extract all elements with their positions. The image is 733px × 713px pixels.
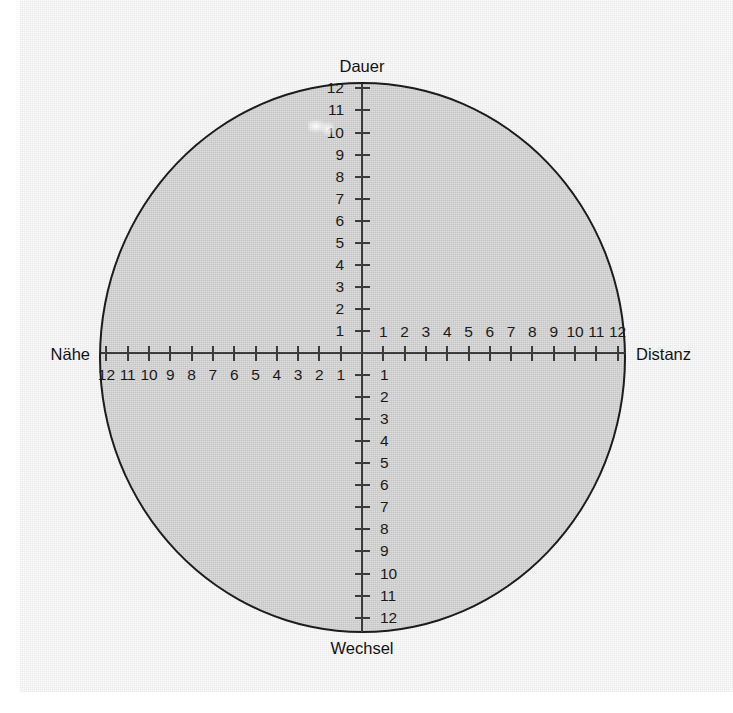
tick-mark — [212, 346, 214, 361]
tick-label-naehe: 3 — [294, 367, 303, 383]
scanned-page: 1234567891011121234567891011121234567891… — [0, 0, 733, 713]
tick-mark — [355, 462, 370, 464]
tick-label-naehe: 12 — [98, 367, 115, 383]
tick-mark — [355, 176, 370, 178]
horizontal-axis — [101, 352, 625, 354]
tick-label-distanz: 11 — [588, 324, 604, 340]
tick-label-dauer: 7 — [335, 191, 344, 207]
tick-mark — [169, 346, 171, 361]
tick-mark — [355, 396, 370, 398]
tick-label-naehe: 5 — [251, 367, 260, 383]
tick-mark — [127, 346, 129, 361]
tick-label-dauer: 12 — [327, 81, 344, 97]
tick-label-dauer: 9 — [335, 147, 344, 163]
tick-label-dauer: 11 — [328, 103, 344, 119]
tick-label-dauer: 5 — [335, 235, 344, 251]
tick-mark — [425, 346, 427, 361]
tick-label-wechsel: 2 — [380, 389, 389, 405]
tick-mark — [574, 346, 576, 361]
tick-label-wechsel: 6 — [380, 478, 389, 494]
tick-mark — [297, 346, 299, 361]
tick-label-naehe: 7 — [209, 367, 218, 383]
tick-label-distanz: 5 — [464, 324, 473, 340]
tick-mark — [446, 346, 448, 361]
tick-label-distanz: 6 — [485, 324, 494, 340]
tick-mark — [355, 286, 370, 288]
tick-label-distanz: 10 — [566, 324, 583, 340]
tick-mark — [318, 346, 320, 361]
tick-label-distanz: 4 — [443, 324, 452, 340]
tick-label-wechsel: 8 — [380, 522, 389, 538]
tick-mark — [355, 308, 370, 310]
tick-mark — [531, 346, 533, 361]
tick-mark — [355, 573, 370, 575]
tick-label-wechsel: 7 — [380, 500, 389, 516]
tick-mark — [617, 346, 619, 361]
pole-label-top: Dauer — [340, 58, 385, 75]
tick-mark — [355, 220, 370, 222]
tick-label-naehe: 9 — [166, 367, 175, 383]
tick-mark — [255, 346, 257, 361]
tick-label-wechsel: 9 — [380, 544, 389, 560]
tick-mark — [355, 528, 370, 530]
tick-label-distanz: 2 — [400, 324, 409, 340]
pole-label-right: Distanz — [636, 346, 691, 363]
tick-mark — [355, 595, 370, 597]
tick-mark — [468, 346, 470, 361]
tick-label-distanz: 1 — [379, 324, 388, 340]
tick-label-naehe: 10 — [140, 367, 157, 383]
tick-mark — [355, 418, 370, 420]
pole-label-bottom: Wechsel — [331, 640, 394, 657]
tick-mark — [510, 346, 512, 361]
tick-label-dauer: 8 — [335, 169, 344, 185]
tick-label-wechsel: 1 — [380, 367, 389, 383]
tick-label-distanz: 9 — [549, 324, 558, 340]
tick-label-naehe: 8 — [187, 367, 196, 383]
tick-mark — [355, 264, 370, 266]
tick-mark — [355, 242, 370, 244]
tick-mark — [355, 132, 370, 134]
tick-label-dauer: 10 — [327, 125, 344, 141]
quadrant-diagram: 1234567891011121234567891011121234567891… — [0, 0, 733, 713]
tick-label-naehe: 11 — [120, 367, 136, 383]
tick-mark — [355, 87, 370, 89]
tick-label-distanz: 12 — [609, 324, 626, 340]
tick-label-dauer: 6 — [335, 213, 344, 229]
tick-mark — [404, 346, 406, 361]
tick-mark — [355, 440, 370, 442]
tick-mark — [191, 346, 193, 361]
tick-mark — [148, 346, 150, 361]
tick-label-wechsel: 10 — [380, 566, 397, 582]
tick-label-wechsel: 4 — [380, 433, 389, 449]
tick-mark — [489, 346, 491, 361]
tick-mark — [382, 346, 384, 361]
tick-label-distanz: 7 — [507, 324, 516, 340]
tick-label-dauer: 3 — [335, 279, 344, 295]
tick-label-distanz: 8 — [528, 324, 537, 340]
tick-label-naehe: 2 — [315, 367, 324, 383]
tick-mark — [355, 154, 370, 156]
tick-mark — [340, 346, 342, 361]
tick-label-dauer: 1 — [335, 323, 344, 339]
tick-mark — [355, 550, 370, 552]
tick-mark — [355, 617, 370, 619]
tick-label-distanz: 3 — [422, 324, 431, 340]
tick-mark — [355, 484, 370, 486]
tick-label-wechsel: 12 — [380, 610, 397, 626]
tick-label-wechsel: 5 — [380, 456, 389, 472]
tick-label-dauer: 2 — [335, 301, 344, 317]
tick-mark — [355, 198, 370, 200]
tick-label-naehe: 4 — [272, 367, 281, 383]
tick-label-naehe: 1 — [336, 367, 345, 383]
tick-label-naehe: 6 — [230, 367, 239, 383]
tick-mark — [276, 346, 278, 361]
tick-mark — [595, 346, 597, 361]
tick-mark — [355, 374, 370, 376]
pole-label-left: Nähe — [51, 346, 90, 363]
tick-label-wechsel: 3 — [380, 411, 389, 427]
tick-mark — [553, 346, 555, 361]
tick-label-dauer: 4 — [335, 257, 344, 273]
tick-mark — [355, 506, 370, 508]
tick-mark — [233, 346, 235, 361]
tick-mark — [355, 109, 370, 111]
